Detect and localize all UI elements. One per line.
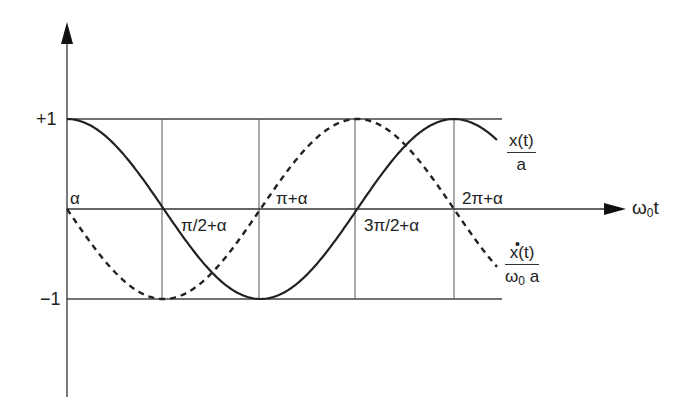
legend-velocity: •x(t) ω0 a — [505, 244, 539, 287]
x-axis-label-sub: 0 — [647, 206, 654, 220]
y-tick-minus-one: −1 — [40, 290, 61, 308]
x-tick-alpha: α — [70, 190, 80, 207]
x-tick-half-pi: π/2+α — [181, 217, 227, 234]
x-axis-arrow-icon — [604, 203, 626, 215]
legend-position-numerator: x(t) — [507, 132, 536, 152]
y-tick-plus-one: +1 — [36, 110, 57, 128]
oscillation-plot — [0, 0, 698, 420]
y-axis-arrow-icon — [61, 22, 73, 44]
x-axis-label-omega: ω — [632, 197, 647, 218]
x-tick-pi: π+α — [276, 190, 308, 207]
den-a: a — [525, 267, 539, 286]
legend-velocity-numerator-text: x(t) — [510, 243, 535, 262]
x-axis-label-t: t — [654, 197, 659, 218]
den-omega: ω — [505, 267, 518, 286]
x-tick-two-pi: 2π+α — [462, 190, 503, 207]
legend-position: x(t) a — [507, 132, 536, 173]
legend-velocity-denominator: ω0 a — [505, 265, 539, 287]
legend-velocity-numerator: •x(t) — [508, 244, 537, 264]
x-axis-label: ω0t — [632, 198, 659, 219]
den-sub: 0 — [518, 274, 525, 288]
x-tick-three-half-pi: 3π/2+α — [364, 217, 419, 234]
legend-position-denominator: a — [517, 153, 526, 173]
derivative-dot-icon: • — [515, 237, 520, 251]
